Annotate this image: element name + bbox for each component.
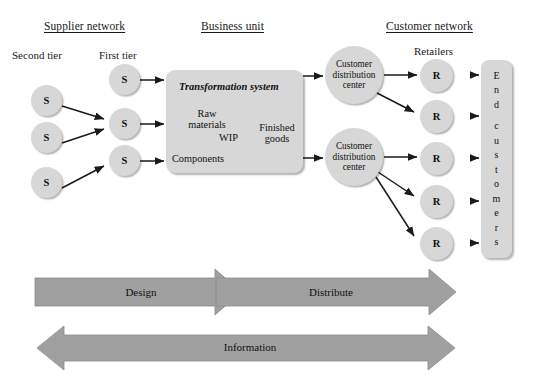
edge-first-tier-to-transformation bbox=[140, 80, 164, 161]
end-customers-letter: o bbox=[494, 177, 499, 192]
end-customers-letter: u bbox=[494, 134, 499, 149]
raw-materials-label-line2: materials bbox=[176, 119, 238, 130]
retailer-node-label: R bbox=[433, 196, 441, 207]
end-customers-letter: e bbox=[494, 206, 498, 221]
end-customers-letter: n bbox=[494, 83, 499, 98]
transformation-system-box[interactable]: Transformation system Raw materials WIP … bbox=[166, 70, 303, 173]
supplier-first-tier-node-3[interactable]: S bbox=[109, 145, 140, 176]
retailer-node-1[interactable]: R bbox=[420, 59, 453, 92]
supplier-node-label: S bbox=[122, 74, 128, 85]
connector-layer bbox=[0, 0, 541, 391]
flow-label-information: Information bbox=[210, 341, 290, 353]
end-customers-label: E n d c u s t o m e r s bbox=[481, 60, 512, 258]
retailer-node-3[interactable]: R bbox=[420, 142, 453, 175]
end-customers-letter: t bbox=[495, 163, 498, 178]
customer-distribution-center-2[interactable]: Customer distribution center bbox=[325, 128, 383, 186]
section-header-business-unit: Business unit bbox=[201, 20, 264, 32]
dc-label-line3: center bbox=[333, 80, 376, 90]
end-customers-letter: m bbox=[493, 192, 501, 207]
supplier-node-label: S bbox=[122, 155, 128, 166]
edge-second-to-first-tier bbox=[62, 106, 104, 188]
supplier-node-label: S bbox=[122, 118, 128, 129]
customer-distribution-center-1[interactable]: Customer distribution center bbox=[325, 46, 383, 104]
retailer-node-label: R bbox=[433, 238, 441, 249]
tier-label-retailers: Retailers bbox=[414, 45, 453, 57]
section-header-customer-network: Customer network bbox=[386, 20, 473, 32]
edge-dc2-to-retailers bbox=[376, 157, 417, 236]
dc-label-line3: center bbox=[333, 162, 376, 172]
end-customers-letter: s bbox=[495, 148, 499, 163]
supplier-node-label: S bbox=[44, 95, 50, 106]
end-customers-letter: r bbox=[495, 221, 498, 236]
flow-label-distribute: Distribute bbox=[296, 286, 366, 298]
retailer-node-label: R bbox=[433, 111, 441, 122]
raw-materials-label-line1: Raw bbox=[176, 108, 238, 119]
retailer-node-5[interactable]: R bbox=[420, 227, 453, 260]
supplier-first-tier-node-2[interactable]: S bbox=[109, 108, 140, 139]
supplier-node-label: S bbox=[44, 132, 50, 143]
dc-label-line2: distribution bbox=[333, 152, 376, 162]
retailer-node-label: R bbox=[433, 70, 441, 81]
flow-label-design: Design bbox=[111, 286, 171, 298]
supplier-second-tier-node-2[interactable]: S bbox=[31, 122, 62, 153]
end-customers-letter: s bbox=[495, 235, 499, 250]
retailer-node-2[interactable]: R bbox=[420, 100, 453, 133]
supplier-node-label: S bbox=[44, 177, 50, 188]
supplier-second-tier-node-1[interactable]: S bbox=[31, 85, 62, 116]
retailer-node-4[interactable]: R bbox=[420, 185, 453, 218]
components-label: Components bbox=[172, 153, 224, 164]
dc-label-line1: Customer bbox=[333, 59, 376, 69]
retailer-node-label: R bbox=[433, 153, 441, 164]
tier-label-second-tier: Second tier bbox=[12, 49, 62, 61]
finished-goods-label-line1: Finished bbox=[252, 122, 302, 133]
tier-label-first-tier: First tier bbox=[99, 49, 137, 61]
edge-dc1-to-retailers bbox=[377, 75, 417, 112]
dc-label-line2: distribution bbox=[333, 70, 376, 80]
end-customers-letter: d bbox=[494, 98, 499, 113]
end-customers-letter: c bbox=[494, 119, 498, 134]
section-header-supplier-network: Supplier network bbox=[44, 20, 125, 32]
edge-transformation-to-dc bbox=[303, 76, 323, 158]
edge-retailers-to-end-customers bbox=[470, 75, 479, 243]
transformation-system-title: Transformation system bbox=[179, 81, 279, 92]
finished-goods-label-line2: goods bbox=[252, 133, 302, 144]
wip-label: WIP bbox=[219, 132, 238, 143]
supplier-second-tier-node-3[interactable]: S bbox=[31, 167, 62, 198]
end-customers-letter: E bbox=[493, 69, 499, 84]
supplier-first-tier-node-1[interactable]: S bbox=[109, 64, 140, 95]
dc-label-line1: Customer bbox=[333, 141, 376, 151]
supply-chain-diagram: Supplier network Business unit Customer … bbox=[0, 0, 541, 391]
